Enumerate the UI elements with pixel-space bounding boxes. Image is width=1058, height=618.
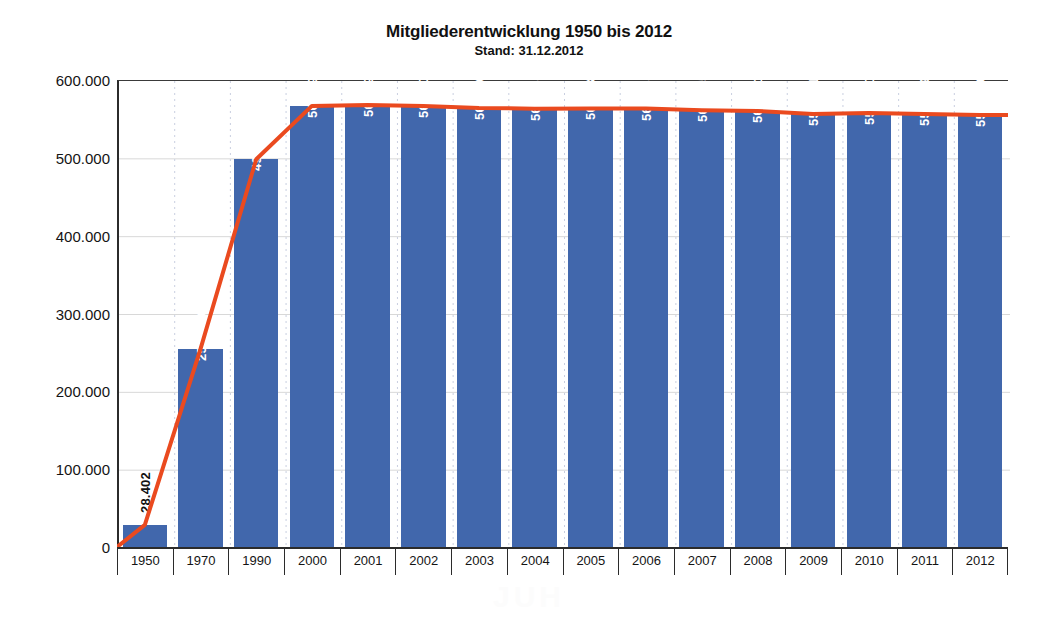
bar-slot: 556.269 xyxy=(902,80,947,547)
bar[interactable] xyxy=(679,110,724,547)
chart-subtitle: Stand: 31.12.2012 xyxy=(0,43,1058,59)
y-axis-tick-label: 500.000 xyxy=(0,149,110,166)
bar[interactable] xyxy=(290,106,335,547)
chart-container: Mitgliederentwicklung 1950 bis 2012 Stan… xyxy=(0,0,1058,618)
x-axis-tick: 2008 xyxy=(730,549,786,575)
bar-value-label: 560.201 xyxy=(750,75,765,123)
x-axis-tick-label: 2004 xyxy=(508,553,563,568)
x-axis-tick-label: 2012 xyxy=(953,553,1007,568)
x-axis-labels: 1950197019902000200120022003200420052006… xyxy=(117,549,1008,577)
x-axis-tick-label: 1950 xyxy=(118,553,173,568)
x-axis-tick-label: 2009 xyxy=(786,553,841,568)
y-axis-labels: 600.000500.000400.000300.000200.000100.0… xyxy=(0,80,110,547)
x-axis-tick: 2004 xyxy=(507,549,563,575)
bar[interactable] xyxy=(512,109,557,547)
x-axis-tick: 2000 xyxy=(284,549,340,575)
y-axis-tick-label: 400.000 xyxy=(0,227,110,244)
x-axis-tick-label: 2002 xyxy=(396,553,451,568)
x-axis-tick: 2001 xyxy=(340,549,396,575)
bar-value-label: 567.798 xyxy=(360,69,375,117)
bar-slot: 566.699 xyxy=(290,80,335,547)
bar-value-label: 556.269 xyxy=(917,78,932,126)
chart-title-block: Mitgliederentwicklung 1950 bis 2012 Stan… xyxy=(0,22,1058,59)
x-axis-tick: 2002 xyxy=(395,549,451,575)
bar-slot: 563.187 xyxy=(512,80,557,547)
bar-value-label: 563.187 xyxy=(527,72,542,120)
bar[interactable] xyxy=(958,115,1003,547)
bar-value-label: 563.534 xyxy=(583,72,598,120)
x-axis-tick-label: 2003 xyxy=(452,553,507,568)
x-axis-tick: 2005 xyxy=(563,549,619,575)
bar[interactable] xyxy=(401,106,446,547)
bar-value-label: 561.045 xyxy=(694,74,709,122)
bar[interactable] xyxy=(902,114,947,547)
x-axis-tick-label: 2001 xyxy=(341,553,396,568)
x-axis-tick: 2003 xyxy=(451,549,507,575)
bar-slot: 498.141 xyxy=(234,80,279,547)
x-axis-tick-label: 2006 xyxy=(619,553,674,568)
bar-value-label: 556.291 xyxy=(806,78,821,126)
y-axis-tick-label: 300.000 xyxy=(0,305,110,322)
x-axis-tick-label: 1970 xyxy=(174,553,229,568)
x-axis-tick: 2011 xyxy=(897,549,953,575)
bar[interactable] xyxy=(178,349,223,547)
x-axis-tick-label: 1990 xyxy=(229,553,284,568)
bar[interactable] xyxy=(847,113,892,547)
bar-slot: 28.402 xyxy=(123,80,168,547)
y-axis-tick-label: 100.000 xyxy=(0,461,110,478)
bar[interactable] xyxy=(624,109,669,547)
bar[interactable] xyxy=(457,108,502,547)
bar[interactable] xyxy=(791,114,836,547)
x-axis-tick-label: 2000 xyxy=(285,553,340,568)
bar[interactable] xyxy=(345,105,390,547)
x-axis-tick: 2006 xyxy=(618,549,674,575)
bar-slot: 556.291 xyxy=(791,80,836,547)
x-axis-tick-label: 2008 xyxy=(731,553,786,568)
x-axis-tick: 2007 xyxy=(674,549,730,575)
bar[interactable] xyxy=(234,159,279,547)
bar-slot: 563.534 xyxy=(568,80,613,547)
bar-value-label: 564.005 xyxy=(471,72,486,120)
bar-value-label: 555.049 xyxy=(973,79,988,127)
bar-slot: 560.201 xyxy=(735,80,780,547)
bar-slot: 563.380 xyxy=(624,80,669,547)
bar-slot: 561.045 xyxy=(679,80,724,547)
bar-slot: 564.005 xyxy=(457,80,502,547)
bars-layer: 28.402254.539498.141566.699567.798566.60… xyxy=(117,80,1008,547)
x-axis-tick-label: 2007 xyxy=(675,553,730,568)
x-axis-tick-label: 2005 xyxy=(564,553,619,568)
y-axis-tick-label: 600.000 xyxy=(0,72,110,89)
y-axis-tick-label: 200.000 xyxy=(0,383,110,400)
bar-value-label: 498.141 xyxy=(249,123,264,171)
bar-slot: 566.609 xyxy=(401,80,446,547)
bar-slot: 557.740 xyxy=(847,80,892,547)
bar-value-label: 28.402 xyxy=(137,472,152,513)
y-axis-tick-label-zero: 0 xyxy=(0,539,110,556)
x-axis-tick: 1970 xyxy=(173,549,229,575)
bar-value-label: 566.699 xyxy=(304,70,319,118)
bar-slot: 567.798 xyxy=(345,80,390,547)
bar[interactable] xyxy=(568,108,613,547)
x-axis-tick-label: 2010 xyxy=(842,553,897,568)
bar-value-label: 563.380 xyxy=(639,72,654,120)
x-axis-tick: 1990 xyxy=(228,549,284,575)
bar-slot: 254.539 xyxy=(178,80,223,547)
bar[interactable] xyxy=(123,525,168,547)
x-axis-tick: 2009 xyxy=(785,549,841,575)
watermark: JUH xyxy=(0,580,1058,614)
page-title: Mitgliederentwicklung 1950 bis 2012 xyxy=(0,22,1058,42)
bar-value-label: 557.740 xyxy=(861,76,876,124)
x-axis-tick: 2010 xyxy=(841,549,897,575)
x-axis-tick: 2012 xyxy=(952,549,1008,575)
x-axis-tick-label: 2011 xyxy=(898,553,953,568)
bar[interactable] xyxy=(735,111,780,547)
bar-slot: 555.049 xyxy=(958,80,1003,547)
bar-value-label: 566.609 xyxy=(416,70,431,118)
x-axis-tick: 1950 xyxy=(117,549,173,575)
bar-value-label: 254.539 xyxy=(193,312,208,360)
